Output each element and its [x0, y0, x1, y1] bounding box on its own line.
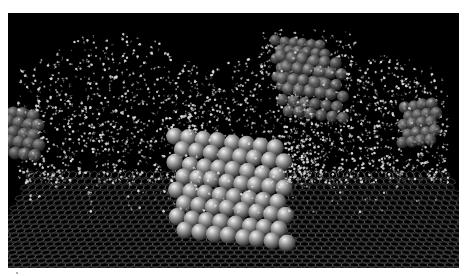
right-cluster: [396, 98, 442, 149]
figure: [0, 0, 467, 276]
molecular-scene: [8, 13, 459, 268]
left-cluster: [8, 105, 45, 162]
render-panel: [8, 13, 459, 268]
stray-mark: [16, 272, 18, 274]
